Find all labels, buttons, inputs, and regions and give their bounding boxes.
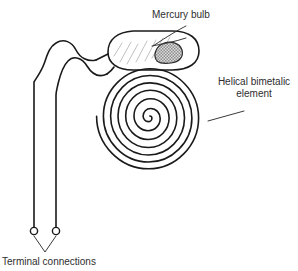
helical-bimetalic-spiral — [97, 69, 199, 169]
mercury-blob — [155, 42, 182, 63]
label-helical-bimetalic-element: Helical bimetalicelement — [212, 76, 296, 100]
leader-lines — [34, 26, 244, 252]
terminal-circles — [30, 227, 59, 234]
label-helical-line-1: Helical bimetalic — [218, 76, 290, 87]
label-helical-line-2: element — [236, 88, 272, 99]
label-terminal-connections: Terminal connections — [2, 256, 96, 268]
leader-helical-element — [208, 111, 244, 121]
thermometer-diagram: Mercury bulb Helical bimetalicelement Te… — [0, 0, 298, 271]
leader-terminal-connections — [34, 236, 56, 252]
label-mercury-bulb: Mercury bulb — [152, 9, 210, 21]
terminal-circle-left — [30, 227, 37, 234]
terminal-circle-right — [52, 227, 59, 234]
bulb-neck — [96, 54, 114, 74]
mercury-bulb-body — [108, 31, 199, 70]
lead-wires — [34, 41, 107, 227]
diagram-canvas — [0, 0, 298, 271]
